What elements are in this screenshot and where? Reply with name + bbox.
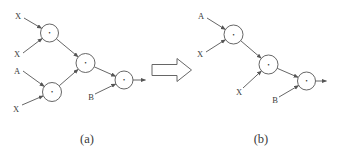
- figure-canvas: X X A X B • • • • (a): [0, 0, 343, 154]
- edge-a-x2-to-node1: [23, 38, 42, 53]
- op-node-symbol: •: [267, 62, 269, 68]
- op-node-symbol: •: [123, 77, 125, 83]
- edge-a-a-to-node2: [23, 71, 44, 86]
- panel-b-input4-label: B: [272, 95, 278, 105]
- edge-b-node1-to-node2: [241, 41, 262, 59]
- panel-b-input1-label: A: [198, 11, 205, 21]
- panel-a-input3-label: A: [14, 66, 21, 76]
- edge-a-b-to-node4: [95, 84, 116, 94]
- edge-b-b-to-node3: [279, 86, 299, 98]
- transform-arrow-icon: [152, 59, 192, 82]
- right-block-arrow-shape: [152, 59, 192, 82]
- edge-b-node2-to-node3: [277, 68, 298, 77]
- panel-a-input1-label: X: [15, 11, 21, 21]
- panel-b-input2-label: X: [197, 49, 203, 59]
- panel-b: A X X B • • • (b): [197, 11, 327, 147]
- op-node-symbol: •: [305, 78, 307, 84]
- edge-a-node1-to-node3: [56, 39, 78, 57]
- op-node-symbol: •: [51, 89, 53, 95]
- expression-dag-figure: X X A X B • • • • (a): [0, 0, 343, 154]
- panel-a-input2-label: X: [14, 49, 20, 59]
- edge-a-x3-to-node2: [22, 96, 43, 105]
- edge-a-node3-to-node4: [94, 67, 116, 77]
- panel-a-input5-label: B: [88, 92, 94, 102]
- edge-b-x2-to-node2: [243, 71, 262, 88]
- edge-b-a-to-node1: [207, 18, 225, 30]
- panel-a: X X A X B • • • • (a): [13, 11, 146, 147]
- op-node-symbol: •: [232, 32, 234, 38]
- edge-a-x1-to-node1: [24, 18, 42, 28]
- op-node-symbol: •: [48, 30, 50, 36]
- panel-b-caption: (b): [254, 132, 269, 146]
- panel-a-caption: (a): [80, 132, 94, 146]
- panel-b-input3-label: X: [236, 87, 242, 97]
- op-node-symbol: •: [84, 60, 86, 66]
- edge-b-x1-to-node1: [206, 40, 226, 52]
- panel-a-input4-label: X: [13, 104, 19, 114]
- edge-a-node2-to-node3: [59, 69, 78, 86]
